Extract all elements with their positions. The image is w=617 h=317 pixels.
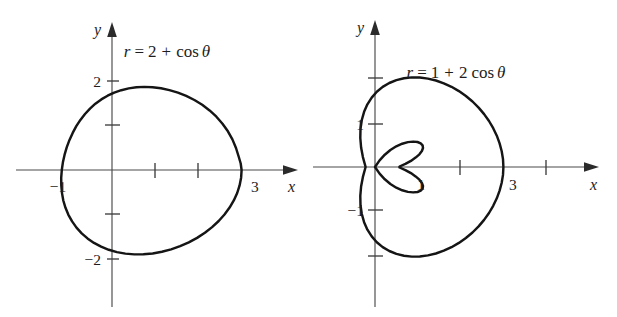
polar-curve-left (61, 87, 241, 255)
chart-svg-right: r=1+2cosθ y x 1 3 1 −1 (308, 0, 617, 317)
chart-svg-left: r=2+cosθ y x −1 3 2 −2 (0, 0, 308, 317)
x-axis-arrow-left (283, 165, 298, 175)
x-tick-label-neg1-left: −1 (50, 178, 67, 195)
chart-panel-left: r=2+cosθ y x −1 3 2 −2 (0, 0, 308, 317)
x-axis-arrow-right (584, 162, 599, 172)
y-axis-label-left: y (92, 21, 102, 39)
x-tick-label-3-left: 3 (251, 178, 259, 195)
y-tick-label-neg1-right: −1 (348, 202, 365, 219)
y-tick-label-1-right: 1 (356, 116, 364, 133)
equation-label-right: r=1+2cosθ (407, 63, 506, 82)
y-axis-arrow-right (370, 20, 380, 35)
x-tick-label-1-right: 1 (417, 176, 425, 193)
chart-panel-right: r=1+2cosθ y x 1 3 1 −1 (308, 0, 617, 317)
y-tick-label-neg2-left: −2 (85, 251, 102, 268)
x-axis-label-right: x (589, 176, 597, 193)
x-tick-label-3-right: 3 (509, 176, 517, 193)
y-axis-label-right: y (355, 19, 365, 37)
y-tick-label-2-left: 2 (93, 73, 101, 90)
polar-curves-figure: r=2+cosθ y x −1 3 2 −2 (0, 0, 617, 317)
y-axis-arrow-left (107, 22, 117, 37)
equation-label-left: r=2+cosθ (124, 42, 210, 61)
x-axis-label-left: x (287, 178, 295, 195)
